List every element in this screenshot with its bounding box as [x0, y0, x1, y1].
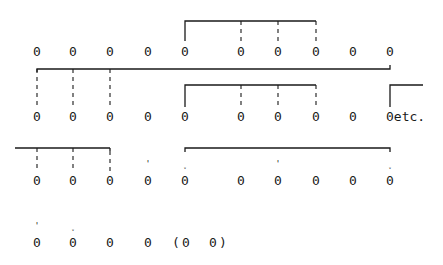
zero-marker: 0 [144, 110, 152, 124]
zero-marker: 0 [349, 110, 357, 124]
zero-marker: 0 [349, 174, 357, 188]
zero-marker: 0 [237, 45, 245, 59]
zero-marker: 0 [106, 174, 114, 188]
stress-check-mark: ˯ [184, 159, 187, 169]
zero-marker: 0 [69, 45, 77, 59]
zero-marker: 0 [182, 236, 190, 250]
zero-marker: 0 [312, 45, 320, 59]
zero-marker: 0 [237, 174, 245, 188]
zero-marker: 0 [274, 45, 282, 59]
zero-marker: 0 [181, 45, 189, 59]
open-paren: ( [172, 236, 180, 250]
zero-marker: 0 [237, 110, 245, 124]
stress-tick-mark: ' [277, 159, 279, 169]
zero-marker: 0 [69, 110, 77, 124]
zero-marker: 0 [33, 174, 41, 188]
zero-marker: 0 [69, 236, 77, 250]
zero-marker: 0 [349, 45, 357, 59]
metrical-grid-diagram: 0 0 0 0 0 0 0 0 0 0 0 0 0 0 0 0 0 0 0 0e… [0, 0, 443, 265]
bracket-row2-top [185, 85, 316, 107]
zero-marker: 0 [312, 174, 320, 188]
bracket-row2-trailing [390, 85, 423, 107]
zero-marker: 0 [33, 110, 41, 124]
bracket-row1-bottom [37, 65, 390, 107]
zero-marker: 0 [181, 110, 189, 124]
zero-marker: 0 [144, 45, 152, 59]
zero-marker: 0 [209, 236, 217, 250]
stress-tick-mark: ' [147, 159, 149, 169]
stress-check-mark: ˯ [72, 221, 75, 231]
stress-check-mark: ˯ [389, 159, 392, 169]
bracket-lines [0, 0, 443, 265]
etc-label: 0etc. [386, 110, 425, 124]
zero-marker: 0 [106, 110, 114, 124]
bracket-row3-left [15, 148, 110, 172]
zero-marker: 0 [144, 174, 152, 188]
zero-marker: 0 [312, 110, 320, 124]
zero-marker: 0 [106, 236, 114, 250]
bracket-row3-right [185, 148, 390, 152]
stress-tick-mark: ' [36, 221, 38, 231]
zero-marker: 0 [274, 110, 282, 124]
zero-marker: 0 [274, 174, 282, 188]
zero-marker: 0 [33, 45, 41, 59]
zero-marker: 0 [69, 174, 77, 188]
zero-marker: 0 [386, 174, 394, 188]
close-paren: ) [219, 236, 227, 250]
zero-marker: 0 [181, 174, 189, 188]
zero-marker: 0 [106, 45, 114, 59]
bracket-row1-top [185, 21, 316, 41]
zero-marker: 0 [144, 236, 152, 250]
zero-marker: 0 [386, 45, 394, 59]
zero-marker: 0 [33, 236, 41, 250]
